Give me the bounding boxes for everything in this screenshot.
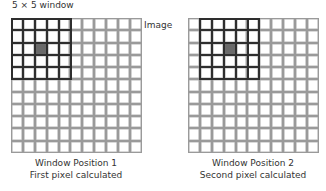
pixel-cell: [11, 141, 23, 153]
pixel-cell: [47, 79, 59, 91]
pixel-cell: [271, 43, 283, 55]
pixel-cell: [35, 104, 47, 116]
pixel-cell: [259, 104, 271, 116]
pixel-cell: [118, 30, 130, 42]
pixel-cell: [35, 116, 47, 128]
window-gridline: [211, 18, 213, 79]
pixel-cell: [59, 92, 71, 104]
pixel-cell: [188, 18, 200, 30]
pixel-cell: [188, 104, 200, 116]
pixel-cell: [295, 55, 307, 67]
pixel-cell: [188, 67, 200, 79]
window-gridline: [200, 66, 260, 68]
pixel-cell: [130, 79, 142, 91]
pixel-cell: [70, 116, 82, 128]
caption-title: Window Position 2: [173, 157, 326, 169]
pixel-cell: [307, 128, 319, 140]
pixel-cell: [295, 116, 307, 128]
pixel-cell: [271, 128, 283, 140]
pixel-cell: [59, 141, 71, 153]
image-grid-position-2: [188, 18, 319, 153]
pixel-cell: [94, 128, 106, 140]
pixel-cell: [212, 128, 224, 140]
pixel-cell: [295, 92, 307, 104]
window-gridline: [58, 18, 60, 79]
pixel-cell: [271, 30, 283, 42]
pixel-cell: [106, 104, 118, 116]
pixel-cell: [94, 141, 106, 153]
window-gridline: [223, 18, 225, 79]
pixel-cell: [307, 79, 319, 91]
pixel-cell: [271, 104, 283, 116]
pixel-cell: [307, 43, 319, 55]
pixel-cell: [82, 116, 94, 128]
pixel-cell: [271, 18, 283, 30]
window-gridline: [11, 29, 71, 31]
pixel-cell: [35, 128, 47, 140]
pixel-cell: [212, 92, 224, 104]
pixel-cell: [23, 92, 35, 104]
pixel-cell: [236, 141, 248, 153]
pixel-cell: [82, 55, 94, 67]
pixel-cell: [11, 92, 23, 104]
pixel-cell: [307, 116, 319, 128]
pixel-cell: [130, 104, 142, 116]
pixel-cell: [200, 116, 212, 128]
pixel-cell: [11, 128, 23, 140]
window-gridline: [247, 18, 249, 79]
pixel-cell: [271, 116, 283, 128]
caption-position-1: Window Position 1 First pixel calculated: [0, 157, 156, 181]
pixel-cell: [283, 43, 295, 55]
pixel-cell: [106, 43, 118, 55]
pixel-cell: [130, 30, 142, 42]
caption-subtitle: Second pixel calculated: [173, 169, 326, 181]
pixel-cell: [82, 92, 94, 104]
window-gridline: [11, 54, 71, 56]
pixel-cell: [23, 116, 35, 128]
pixel-cell: [200, 104, 212, 116]
pixel-cell: [59, 116, 71, 128]
pixel-cell: [188, 43, 200, 55]
pixel-cell: [295, 43, 307, 55]
pixel-cell: [307, 67, 319, 79]
pixel-cell: [271, 55, 283, 67]
pixel-cell: [307, 104, 319, 116]
window-size-label: 5 × 5 window: [12, 0, 74, 10]
pixel-cell: [94, 55, 106, 67]
pixel-cell: [224, 128, 236, 140]
pixel-cell: [118, 116, 130, 128]
pixel-cell: [247, 104, 259, 116]
pixel-cell: [295, 79, 307, 91]
pixel-cell: [130, 67, 142, 79]
pixel-cell: [70, 43, 82, 55]
pixel-cell: [283, 92, 295, 104]
pixel-cell: [283, 128, 295, 140]
pixel-cell: [11, 104, 23, 116]
pixel-cell: [106, 55, 118, 67]
pixel-cell: [295, 104, 307, 116]
pixel-cell: [82, 18, 94, 30]
pixel-cell: [118, 104, 130, 116]
pixel-cell: [200, 92, 212, 104]
pixel-cell: [247, 116, 259, 128]
pixel-cell: [259, 141, 271, 153]
pixel-cell: [106, 92, 118, 104]
pixel-cell: [118, 79, 130, 91]
pixel-cell: [212, 79, 224, 91]
pixel-cell: [271, 141, 283, 153]
pixel-cell: [106, 128, 118, 140]
center-pixel: [225, 44, 235, 54]
pixel-cell: [259, 116, 271, 128]
pixel-cell: [212, 141, 224, 153]
pixel-cell: [106, 30, 118, 42]
pixel-cell: [307, 92, 319, 104]
pixel-cell: [259, 30, 271, 42]
pixel-cell: [70, 55, 82, 67]
pixel-cell: [94, 30, 106, 42]
pixel-cell: [283, 141, 295, 153]
pixel-cell: [82, 30, 94, 42]
pixel-cell: [82, 79, 94, 91]
pixel-cell: [106, 79, 118, 91]
caption-subtitle: First pixel calculated: [0, 169, 156, 181]
pixel-cell: [283, 67, 295, 79]
